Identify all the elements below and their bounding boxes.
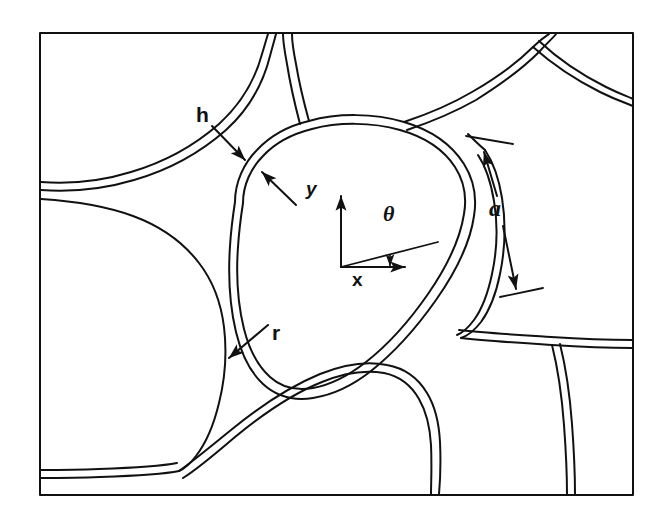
h-leader-lower (262, 172, 296, 205)
label-a: a (489, 196, 501, 220)
label-h: h (196, 104, 209, 125)
cell-right-lower-boundary-inner (459, 330, 633, 340)
central-cell-wall-inner (237, 124, 465, 389)
junction-top-center-left-branch-inner (283, 34, 300, 124)
cell-left-lower-junction-inner (41, 463, 177, 470)
label-y-axis: y (306, 179, 317, 198)
diagram-canvas (0, 0, 665, 524)
cell-top-left-wall-inner (41, 34, 268, 183)
cell-bottom-center-wall (179, 363, 440, 494)
foam-cell-diagram: h a r θ y x (0, 0, 665, 524)
cell-bottom-center-wall-inner (183, 372, 431, 494)
a-dimension-lower-arrow (503, 226, 516, 289)
junction-top-center-left-branch (292, 34, 309, 121)
central-cell-wall-outer (229, 115, 475, 399)
figure-border (40, 33, 633, 495)
h-leader-upper (212, 126, 245, 160)
cell-top-right-branch-inner (539, 41, 633, 99)
label-r: r (272, 322, 280, 343)
label-theta: θ (383, 203, 394, 225)
cell-top-left-wall (41, 34, 276, 191)
cell-top-right-wall (404, 34, 549, 122)
a-extension-line-bottom (500, 288, 543, 297)
label-x-axis: x (352, 270, 363, 289)
cell-top-right-branch (533, 47, 633, 106)
cell-left-lower-junction (41, 471, 179, 478)
cell-left-middle-wall (41, 199, 225, 471)
